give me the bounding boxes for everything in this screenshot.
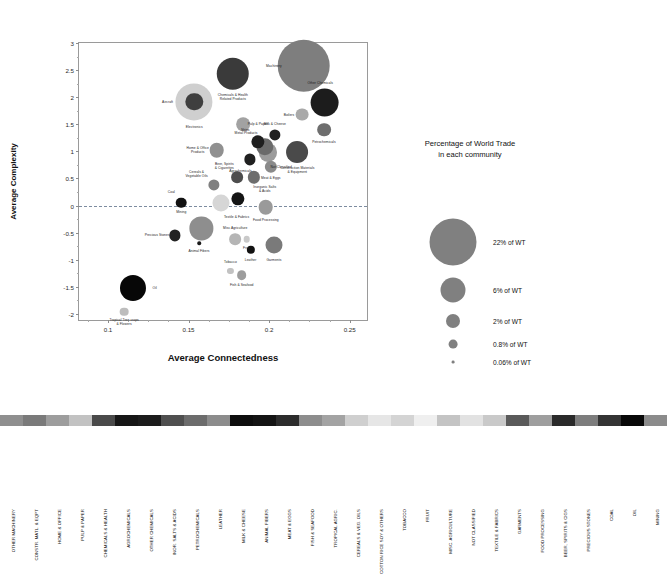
- strip-cell[interactable]: [161, 415, 184, 426]
- scatter-panel: Average Complexity -2-1.5-1-0.500.511.52…: [0, 0, 400, 385]
- point-label: Precious Stones: [145, 233, 170, 237]
- strip-cell[interactable]: [506, 415, 529, 426]
- bubble-animal-fibers[interactable]: [197, 242, 201, 246]
- y-tick-mark: [76, 70, 79, 71]
- strip-cell[interactable]: [575, 415, 598, 426]
- strip-cell[interactable]: [138, 415, 161, 426]
- point-label: Animal Fibers: [189, 249, 210, 253]
- bubble-construction-materials[interactable]: [286, 141, 308, 163]
- strip-label: COTTON RICE SOY & OTHERS: [379, 509, 384, 574]
- x-minor-tick: [209, 320, 210, 322]
- bubble-chemicals-health[interactable]: [217, 58, 250, 91]
- x-minor-tick: [88, 320, 89, 322]
- bubble-fruit[interactable]: [243, 236, 250, 243]
- bubble-tropical-tree-crops[interactable]: [120, 307, 129, 316]
- bubble-coal[interactable]: [176, 198, 187, 209]
- strip-cell[interactable]: [322, 415, 345, 426]
- bubble-mining[interactable]: [190, 217, 213, 240]
- size-legend: Percentage of World Trade in each commun…: [395, 138, 585, 360]
- strip-cell[interactable]: [253, 415, 276, 426]
- bubble-food-processing[interactable]: [259, 200, 274, 215]
- bubble-home-office[interactable]: [209, 143, 224, 158]
- strip-cell[interactable]: [23, 415, 46, 426]
- strip-cell[interactable]: [230, 415, 253, 426]
- x-minor-tick: [168, 320, 169, 322]
- bubble-tobacco[interactable]: [227, 267, 233, 273]
- strip-label: LEATHER: [218, 509, 223, 529]
- bubble-textile-fabrics[interactable]: [212, 194, 229, 211]
- strip-cell[interactable]: [299, 415, 322, 426]
- bubble-milk-cheese[interactable]: [269, 129, 280, 140]
- x-tick-mark: [350, 320, 351, 323]
- strip-cell[interactable]: [368, 415, 391, 426]
- strip-cell[interactable]: [621, 415, 644, 426]
- point-label: Textile & Fabrics: [224, 215, 249, 219]
- strip-cell[interactable]: [92, 415, 115, 426]
- y-tick-mark: [76, 43, 79, 44]
- strip-label: CHEMICALS & HEALTH: [103, 509, 108, 558]
- strip-label: HOME & OFFICE: [57, 509, 62, 544]
- strip-cell[interactable]: [345, 415, 368, 426]
- strip-cell[interactable]: [644, 415, 667, 426]
- strip-cell[interactable]: [46, 415, 69, 426]
- y-minor-tick: [77, 165, 79, 166]
- strip-cell[interactable]: [529, 415, 552, 426]
- plot-area: -2-1.5-1-0.500.511.522.530.10.150.20.25M…: [78, 42, 368, 321]
- strip-cell[interactable]: [276, 415, 299, 426]
- y-tick-mark: [76, 97, 79, 98]
- strip-cell[interactable]: [69, 415, 92, 426]
- bubble-misc-agriculture[interactable]: [229, 233, 241, 245]
- x-minor-tick: [289, 320, 290, 322]
- point-label: Milk & Cheese: [264, 122, 286, 126]
- bubble-beer-spirits[interactable]: [231, 171, 243, 183]
- strip-label: CONSTR. MATL. & EQPT: [34, 509, 39, 561]
- strip-cell[interactable]: [207, 415, 230, 426]
- strip-cell[interactable]: [437, 415, 460, 426]
- bubble-other-chemicals[interactable]: [310, 88, 339, 117]
- community-color-strip: OTHER MACHINERYCONSTR. MATL. & EQPTHOME …: [0, 415, 667, 511]
- bubble-petrochemicals[interactable]: [317, 123, 331, 137]
- y-minor-tick: [77, 273, 79, 274]
- bubble-cereals[interactable]: [208, 179, 219, 190]
- strip-label: PULP & PAPER: [80, 509, 85, 541]
- x-tick-label: 0.2: [265, 326, 274, 333]
- point-label: Construction Materials & Equipment: [280, 166, 314, 174]
- point-label: Tropical Tree crops & Flowers: [109, 318, 138, 326]
- y-minor-tick: [77, 219, 79, 220]
- y-tick-mark: [76, 151, 79, 152]
- strip-cell[interactable]: [115, 415, 138, 426]
- point-label: Oil: [153, 286, 157, 290]
- strip-cell[interactable]: [483, 415, 506, 426]
- bubble-agrochemicals[interactable]: [244, 154, 255, 165]
- strip-cell[interactable]: [184, 415, 207, 426]
- strip-label: INOR. SALTS & ACIDS: [172, 509, 177, 555]
- strip-cell[interactable]: [552, 415, 575, 426]
- bubble-boilers[interactable]: [296, 108, 309, 121]
- strip-label: FISH & SEAFOOD: [310, 509, 315, 546]
- strip-cell[interactable]: [0, 415, 23, 426]
- bubble-inorganic-salts[interactable]: [248, 171, 260, 183]
- strip-cell[interactable]: [391, 415, 414, 426]
- y-tick-label: 2: [71, 94, 74, 101]
- strip-label: PRECIOUS STONES: [586, 509, 591, 552]
- bubble-unlabeled-20[interactable]: [231, 192, 244, 205]
- y-tick-mark: [76, 178, 79, 179]
- strip-label: BEER, SPIRITS & CIGS: [563, 509, 568, 557]
- legend-bubble: [449, 340, 458, 349]
- x-minor-tick: [229, 320, 230, 322]
- bubble-precious-stones[interactable]: [169, 230, 180, 241]
- bubble-garments[interactable]: [265, 236, 282, 253]
- strip-label: FOOD PROCESSING: [540, 509, 545, 553]
- strip-cell[interactable]: [598, 415, 621, 426]
- bubble-oil[interactable]: [120, 275, 146, 301]
- point-label: Aircraft: [162, 99, 173, 103]
- legend-label: 22% of WT: [493, 238, 526, 245]
- point-label: Chemicals & Health Related Products: [218, 93, 248, 101]
- bubble-fish-seafood[interactable]: [237, 270, 247, 280]
- strip-cell[interactable]: [460, 415, 483, 426]
- point-label: Other Chemicals: [307, 81, 333, 85]
- legend-label: 0.06% of WT: [493, 359, 531, 366]
- x-minor-tick: [330, 320, 331, 322]
- x-minor-tick: [309, 320, 310, 322]
- strip-cell[interactable]: [414, 415, 437, 426]
